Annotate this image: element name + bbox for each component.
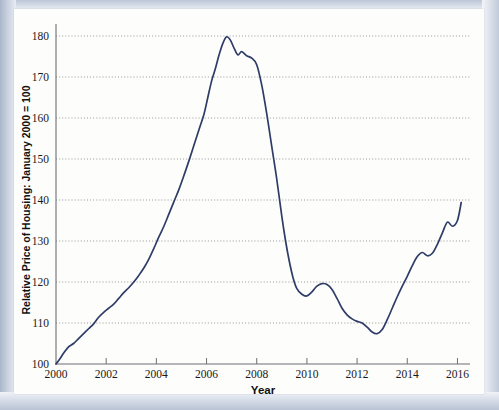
x-tick-label-2012: 2012: [346, 368, 369, 380]
axes-group: [56, 24, 470, 364]
y-axis-title: Relative Price of Housing: January 2000 …: [20, 85, 32, 314]
x-tick-label-2000: 2000: [45, 368, 68, 380]
x-tick-label-2010: 2010: [295, 368, 318, 380]
y-tick-label-110: 110: [32, 317, 49, 329]
y-tick-label-180: 180: [32, 30, 50, 42]
x-tick-labels-group: 200020022004200620082010201220142016: [45, 368, 470, 380]
x-axis-title: Year: [251, 384, 276, 396]
y-tick-label-150: 150: [32, 153, 50, 165]
chart-svg: 100110120130140150160170180 200020022004…: [0, 0, 499, 410]
y-tick-label-170: 170: [32, 71, 50, 83]
y-tick-label-120: 120: [32, 276, 50, 288]
y-tick-label-130: 130: [32, 235, 50, 247]
gridlines-group: [56, 36, 470, 323]
x-tick-label-2004: 2004: [145, 368, 168, 380]
tick-marks-group: [106, 358, 457, 364]
x-tick-label-2006: 2006: [195, 368, 218, 380]
y-tick-label-160: 160: [32, 112, 50, 124]
y-tick-label-140: 140: [32, 194, 50, 206]
x-tick-label-2002: 2002: [95, 368, 118, 380]
x-tick-label-2016: 2016: [446, 368, 469, 380]
housing-price-chart: 100110120130140150160170180 200020022004…: [0, 0, 499, 410]
x-tick-label-2014: 2014: [396, 368, 419, 380]
x-tick-label-2008: 2008: [245, 368, 268, 380]
y-tick-labels-group: 100110120130140150160170180: [32, 30, 50, 370]
